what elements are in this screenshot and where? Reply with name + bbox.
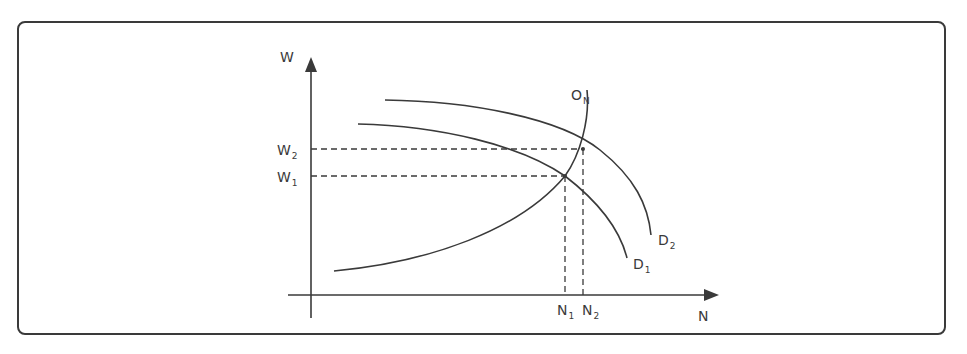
equilibrium-point-2 [581, 147, 585, 151]
n2-label: N2 [582, 302, 599, 321]
demand-d1-label: D1 [633, 256, 651, 275]
supply-curve-label: ON [571, 87, 590, 106]
equilibrium-point-1 [563, 174, 567, 178]
x-axis-arrow-icon [704, 289, 719, 301]
w1-label: W1 [277, 169, 298, 188]
y-axis-label: W [280, 49, 294, 65]
w2-label: W2 [277, 142, 298, 161]
demand-curve-d1 [358, 124, 627, 258]
y-axis-arrow-icon [305, 57, 317, 72]
supply-curve-on [334, 90, 588, 271]
n1-label: N1 [557, 302, 574, 321]
x-axis-label: N [698, 308, 708, 324]
demand-curve-d2 [385, 100, 651, 235]
labour-market-diagram: W N W2 W1 N1 N2 ON D2 D1 [0, 0, 967, 354]
demand-d2-label: D2 [658, 232, 676, 251]
